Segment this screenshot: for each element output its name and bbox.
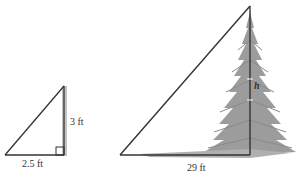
- small-triangle: [5, 86, 64, 155]
- large-base-label: 29 ft: [187, 162, 206, 173]
- similar-triangles-diagram: [0, 0, 305, 183]
- small-base-label: 2.5 ft: [22, 158, 43, 169]
- tree-silhouette: [140, 12, 296, 158]
- small-height-label: 3 ft: [70, 116, 84, 127]
- tree-height-label: h: [254, 80, 260, 91]
